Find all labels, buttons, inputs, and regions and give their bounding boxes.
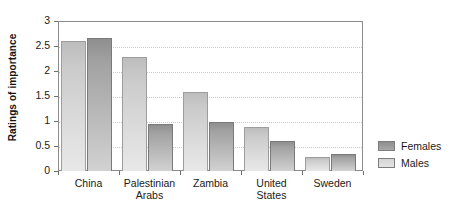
- y-tick-label: 0: [24, 165, 50, 176]
- females-swatch: [378, 141, 395, 151]
- x-tick-mark: [302, 171, 303, 175]
- chart-figure: Ratings of importance 00.511.522.53 Chin…: [0, 0, 454, 213]
- y-tick-label: 2: [24, 65, 50, 76]
- bar-united-states-females: [270, 141, 295, 171]
- x-tick-mark: [119, 171, 120, 175]
- legend-label: Males: [401, 157, 429, 169]
- bar-china-females: [87, 38, 112, 171]
- x-category-label: UnitedStates: [241, 177, 302, 201]
- y-tick-label: 1: [24, 115, 50, 126]
- legend-label: Females: [401, 140, 441, 152]
- legend-item-males[interactable]: Males: [378, 157, 441, 169]
- bar-china-males: [61, 41, 86, 171]
- y-axis-title-text: Ratings of importance: [8, 34, 19, 142]
- chart-legend: FemalesMales: [378, 140, 441, 174]
- x-tick-mark: [363, 171, 364, 175]
- x-category-label: PalestinianArabs: [119, 177, 180, 201]
- legend-item-females[interactable]: Females: [378, 140, 441, 152]
- x-category-label-line: States: [241, 189, 302, 201]
- bar-zambia-males: [183, 92, 208, 171]
- bar-united-states-males: [244, 127, 269, 171]
- x-category-label-line: United: [241, 177, 302, 189]
- y-tick-label: 1.5: [24, 90, 50, 101]
- x-tick-mark: [241, 171, 242, 175]
- bar-sweden-females: [331, 154, 356, 171]
- x-category-label-line: Palestinian: [119, 177, 180, 189]
- x-category-label-line: Arabs: [119, 189, 180, 201]
- males-swatch: [378, 158, 395, 168]
- y-tick-label: 0.5: [24, 140, 50, 151]
- bar-palestinian-arabs-females: [148, 124, 173, 172]
- x-category-label: China: [58, 177, 119, 189]
- y-tick-label: 2.5: [24, 40, 50, 51]
- x-tick-mark: [180, 171, 181, 175]
- y-axis-title: Ratings of importance: [0, 0, 26, 175]
- bars-layer: [58, 21, 363, 171]
- x-category-label-line: China: [58, 177, 119, 189]
- y-tick-label: 3: [24, 15, 50, 26]
- x-category-label: Sweden: [302, 177, 363, 189]
- x-tick-mark: [58, 171, 59, 175]
- x-category-label: Zambia: [180, 177, 241, 189]
- bar-zambia-females: [209, 122, 234, 172]
- x-category-label-line: Sweden: [302, 177, 363, 189]
- x-category-label-line: Zambia: [180, 177, 241, 189]
- bar-palestinian-arabs-males: [122, 57, 147, 171]
- bar-sweden-males: [305, 157, 330, 172]
